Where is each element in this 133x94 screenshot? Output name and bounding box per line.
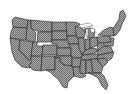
- state-ut: [31, 42, 43, 56]
- state-oh: [90, 37, 98, 48]
- state-wa: [12, 17, 28, 28]
- state-mt: [31, 20, 52, 32]
- state-pa: [97, 36, 111, 43]
- state-in: [85, 39, 90, 50]
- state-co: [42, 45, 57, 55]
- lake-michigan: [86, 28, 88, 37]
- state-wi: [75, 26, 85, 38]
- state-az: [29, 56, 42, 71]
- state-nd: [52, 22, 67, 31]
- lake-superior: [79, 23, 93, 28]
- state-sd: [52, 31, 67, 40]
- states: [10, 10, 126, 90]
- state-wy: [37, 32, 52, 42]
- state-or: [10, 27, 27, 40]
- state-ks: [57, 48, 71, 56]
- state-new-england: [113, 10, 126, 36]
- state-nm: [41, 56, 55, 71]
- state-ms: [80, 60, 86, 74]
- us-map: [0, 0, 133, 94]
- state-ny: [98, 27, 114, 36]
- state-fl: [88, 73, 108, 90]
